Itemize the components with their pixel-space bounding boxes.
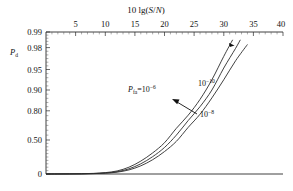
x-tick-label: 10	[101, 19, 110, 29]
y-tick-label: 0.50	[27, 135, 42, 145]
y-tick-label: 0.99	[27, 27, 42, 37]
y-tick-label: 0.80	[27, 106, 42, 116]
x-tick-label: 35	[249, 19, 258, 29]
x-tick-label: 25	[190, 19, 199, 29]
x-tick-label: 40	[277, 19, 286, 29]
x-tick-label: 15	[131, 19, 140, 29]
x-tick-label: 5	[73, 19, 77, 29]
y-tick-label: 0.95	[27, 65, 42, 75]
x-axis-title: 10 lg(S/N)	[127, 5, 164, 15]
chart-figure: 10 lg(S/N) Pd 5 10 15 20 25 30 35 40 0.9…	[0, 0, 293, 191]
detection-probability-chart: 10 lg(S/N) Pd 5 10 15 20 25 30 35 40 0.9…	[0, 0, 293, 191]
x-tick-label: 20	[160, 19, 169, 29]
y-tick-label: 0	[38, 169, 42, 179]
y-tick-label: 0.98	[27, 43, 42, 53]
y-tick-label: 0.90	[27, 85, 42, 95]
x-tick-label: 30	[220, 19, 229, 29]
